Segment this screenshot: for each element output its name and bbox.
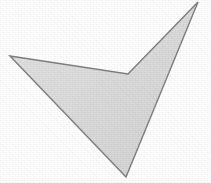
arrowhead-polygon [10,2,198,177]
arrowhead-shape-svg [0,0,211,183]
image-canvas [0,0,211,183]
